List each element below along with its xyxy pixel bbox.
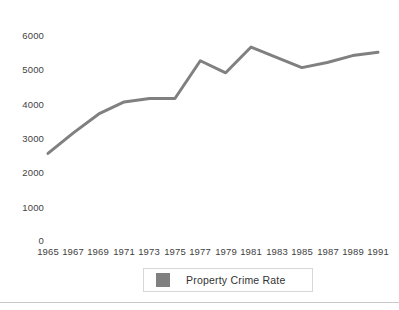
chart-legend: Property Crime Rate <box>143 268 313 292</box>
legend-swatch-property-crime-rate <box>156 273 170 287</box>
x-tick-label: 1971 <box>113 246 135 258</box>
x-axis: 1965 1967 1969 1971 1973 1975 1977 1979 … <box>0 246 399 262</box>
series-line-layer <box>0 0 399 250</box>
x-tick-label: 1989 <box>342 246 364 258</box>
x-tick-label: 1985 <box>291 246 313 258</box>
x-tick-label: 1981 <box>240 246 262 258</box>
property-crime-rate-chart: 6000 5000 4000 3000 2000 1000 0 1965 196… <box>0 0 399 310</box>
x-tick-label: 1977 <box>189 246 211 258</box>
x-tick-label: 1969 <box>87 246 109 258</box>
series-line-property-crime-rate <box>48 47 378 153</box>
plot-area: 6000 5000 4000 3000 2000 1000 0 <box>0 0 399 250</box>
legend-label: Property Crime Rate <box>186 274 286 286</box>
x-tick-label: 1973 <box>138 246 160 258</box>
bottom-divider <box>0 302 399 303</box>
x-tick-label: 1991 <box>367 246 389 258</box>
x-tick-label: 1983 <box>266 246 288 258</box>
x-tick-label: 1979 <box>215 246 237 258</box>
x-tick-label: 1987 <box>317 246 339 258</box>
x-tick-label: 1967 <box>62 246 84 258</box>
x-tick-label: 1965 <box>37 246 59 258</box>
x-tick-label: 1975 <box>164 246 186 258</box>
